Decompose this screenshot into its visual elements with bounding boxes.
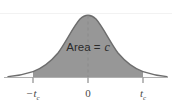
x-tick-label-negative-tc: −tc xyxy=(26,87,40,102)
area-label-text: Area = xyxy=(66,41,100,53)
tick-left-sign: − xyxy=(26,87,32,99)
tick-left-subscript: c xyxy=(37,94,41,102)
x-tick-label-positive-tc: tc xyxy=(140,87,147,102)
bell-curve-chart: Area =c −tc 0 tc xyxy=(0,0,172,106)
x-tick-label-zero: 0 xyxy=(85,87,91,99)
t-distribution-figure: Area =c −tc 0 tc xyxy=(0,0,172,106)
area-label-variable: c xyxy=(104,40,110,54)
area-label: Area =c xyxy=(66,40,110,54)
tick-right-subscript: c xyxy=(143,94,147,102)
